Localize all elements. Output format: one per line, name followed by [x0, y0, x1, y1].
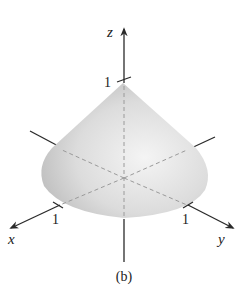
figure-caption: (b) — [116, 269, 133, 285]
x-tick-label: 1 — [52, 212, 59, 227]
y-axis — [188, 205, 233, 228]
z-tick-label: 1 — [104, 75, 111, 90]
z-axis-label: z — [106, 24, 113, 40]
y-tick-label: 1 — [182, 212, 189, 227]
x-axis-label: x — [7, 231, 15, 247]
y-axis-label: y — [216, 231, 225, 247]
cone-figure: z 1 1 x 1 y (b) — [0, 0, 243, 289]
cone-surface — [41, 83, 208, 218]
